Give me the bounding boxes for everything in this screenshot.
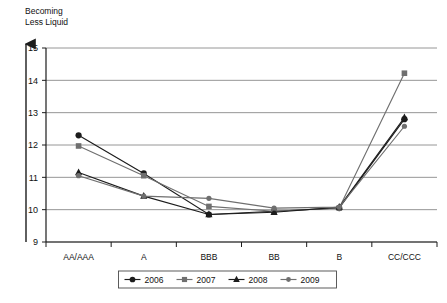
- y-tick-label: 11: [29, 173, 38, 183]
- x-axis-tick-labels: AA/AAAABBBBBBCC/CCC: [63, 252, 421, 262]
- series-2008: [75, 114, 408, 218]
- legend-label: 2006: [145, 275, 164, 285]
- data-series-layer: [75, 70, 408, 217]
- legend-label: 2009: [301, 275, 320, 285]
- y-tick-label: 13: [28, 108, 38, 118]
- y-tick-label: 15: [28, 43, 38, 53]
- x-tick-label: CC/CCC: [388, 252, 421, 262]
- x-axis: [46, 242, 437, 247]
- y-tick-label: 10: [28, 205, 38, 215]
- y-tick-label: 14: [28, 76, 38, 86]
- x-tick-label: BB: [268, 252, 280, 262]
- x-tick-label: BBB: [200, 252, 217, 262]
- liquidity-line-chart: Becoming Less Liquid 9101112131415 AA/AA…: [0, 0, 447, 303]
- y-tick-label: 9: [33, 237, 38, 247]
- x-tick-label: A: [141, 252, 147, 262]
- chart-legend: 2006200720082009: [119, 271, 337, 288]
- series-2007: [76, 70, 407, 214]
- legend-label: 2007: [197, 275, 216, 285]
- y-axis-tick-labels: 9101112131415: [28, 43, 38, 247]
- x-tick-label: B: [336, 252, 342, 262]
- x-tick-label: AA/AAA: [63, 252, 94, 262]
- legend-label: 2008: [249, 275, 268, 285]
- chart-canvas: 9101112131415 AA/AAAABBBBBBCC/CCC 200620…: [0, 0, 447, 303]
- y-tick-label: 12: [28, 140, 38, 150]
